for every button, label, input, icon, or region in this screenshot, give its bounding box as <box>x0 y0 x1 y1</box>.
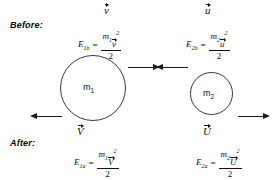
equation-E2a-vector: U <box>230 157 237 167</box>
velocity-arrow-u-before <box>162 67 188 68</box>
equation-E1a-numerator: m1V2 <box>97 146 119 167</box>
equation-E1b-vector-accent <box>112 39 116 40</box>
mass-subscript-m1: 1 <box>91 87 95 94</box>
vector-letter-u: u <box>205 5 211 15</box>
equation-E2a-power: 2 <box>237 148 240 154</box>
mass-label-m1: m1 <box>83 82 94 94</box>
equation-E1a-subscript: 1a <box>80 162 86 168</box>
equation-E2a-fraction: m2U2 2 <box>219 146 242 179</box>
vector-arrow-accent-V <box>78 125 83 126</box>
equation-E1b-denominator: 2 <box>107 51 116 61</box>
equation-E2a-lhs: E2a <box>196 157 208 169</box>
equation-E1a-denominator: 2 <box>103 169 112 179</box>
equation-E1a-fraction: m1V2 2 <box>97 146 119 179</box>
vector-letter-V: V <box>77 126 84 136</box>
vector-symbol-U-after: U <box>203 125 211 136</box>
mass-label-m2: m2 <box>203 88 214 100</box>
physics-collision-diagram: Before: After: m1 m2 v u V U E1b = m1v2 … <box>0 0 278 180</box>
equation-E2b-vector: u <box>220 39 225 49</box>
mass-symbol-m2: m <box>203 88 211 98</box>
equation-E1b: E1b = m1v2 2 <box>78 28 121 61</box>
velocity-arrow-v-before <box>128 67 154 68</box>
equation-E1b-power: 2 <box>116 30 119 36</box>
mass-subscript-m2: 2 <box>211 93 215 100</box>
equation-E2b-vector-accent <box>220 39 225 40</box>
equation-E2b-denominator: 2 <box>215 51 224 61</box>
vector-symbol-V-after: V <box>77 125 84 136</box>
equation-E1b-equals: = <box>93 40 98 50</box>
vector-arrow-accent-v <box>105 4 108 5</box>
equation-E2a-vector-accent <box>230 157 237 158</box>
equation-E2a-denominator: 2 <box>226 169 235 179</box>
vector-arrow-accent-U <box>204 125 210 126</box>
equation-E1b-lhs: E1b <box>78 39 90 51</box>
equation-E2a: E2a = m2U2 2 <box>196 146 242 179</box>
equation-E2a-numerator: m2U2 <box>219 146 242 167</box>
equation-E1a-lhs: E1a <box>74 157 86 169</box>
equation-E2b: E2b = m2u2 2 <box>186 28 230 61</box>
equation-E1b-numerator: m1v2 <box>101 28 122 49</box>
vector-letter-U: U <box>203 126 211 136</box>
equation-E1b-vector: v <box>112 39 116 49</box>
mass-symbol-m1: m <box>83 82 91 92</box>
equation-E2b-power: 2 <box>225 30 228 36</box>
equation-E2a-subscript: 2a <box>202 162 208 168</box>
equation-E1a: E1a = m1V2 2 <box>74 146 119 179</box>
equation-E1b-subscript: 1b <box>84 44 90 50</box>
vector-symbol-u-before: u <box>205 4 211 15</box>
equation-E1b-fraction: m1v2 2 <box>101 28 122 61</box>
phase-label-after: After: <box>10 138 35 148</box>
equation-E1a-vector-accent <box>108 157 114 158</box>
equation-E2b-numerator: m2u2 <box>209 28 230 49</box>
equation-E2a-equals: = <box>211 158 216 168</box>
equation-E1a-power: 2 <box>114 148 117 154</box>
equation-E1a-vector: V <box>108 157 114 167</box>
equation-E2b-fraction: m2u2 2 <box>209 28 230 61</box>
velocity-arrow-U-after <box>238 116 264 117</box>
phase-label-before: Before: <box>10 20 43 30</box>
vector-letter-v: v <box>104 5 109 15</box>
vector-arrow-accent-u <box>206 4 210 5</box>
equation-E2b-lhs: E2b <box>186 39 198 51</box>
equation-E2b-equals: = <box>201 40 206 50</box>
velocity-arrow-V-after <box>36 116 62 117</box>
vector-symbol-v-before: v <box>104 4 109 15</box>
equation-E1a-equals: = <box>89 158 94 168</box>
equation-E2b-subscript: 2b <box>192 44 198 50</box>
